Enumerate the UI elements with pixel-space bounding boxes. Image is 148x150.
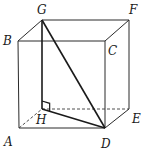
label-b: B bbox=[2, 34, 12, 48]
label-f: F bbox=[128, 3, 138, 17]
label-c: C bbox=[108, 44, 117, 58]
triangle-ghd bbox=[42, 20, 105, 128]
edge-bg bbox=[18, 20, 42, 41]
edge-ba bbox=[18, 41, 19, 128]
label-h: H bbox=[35, 113, 47, 127]
edge-ed bbox=[105, 109, 129, 128]
label-g: G bbox=[37, 3, 47, 17]
label-e: E bbox=[131, 112, 141, 126]
label-a: A bbox=[3, 135, 13, 149]
cube-diagram: A B C D E F G H bbox=[0, 0, 148, 150]
edge-cf bbox=[105, 20, 129, 41]
label-d: D bbox=[100, 137, 111, 150]
